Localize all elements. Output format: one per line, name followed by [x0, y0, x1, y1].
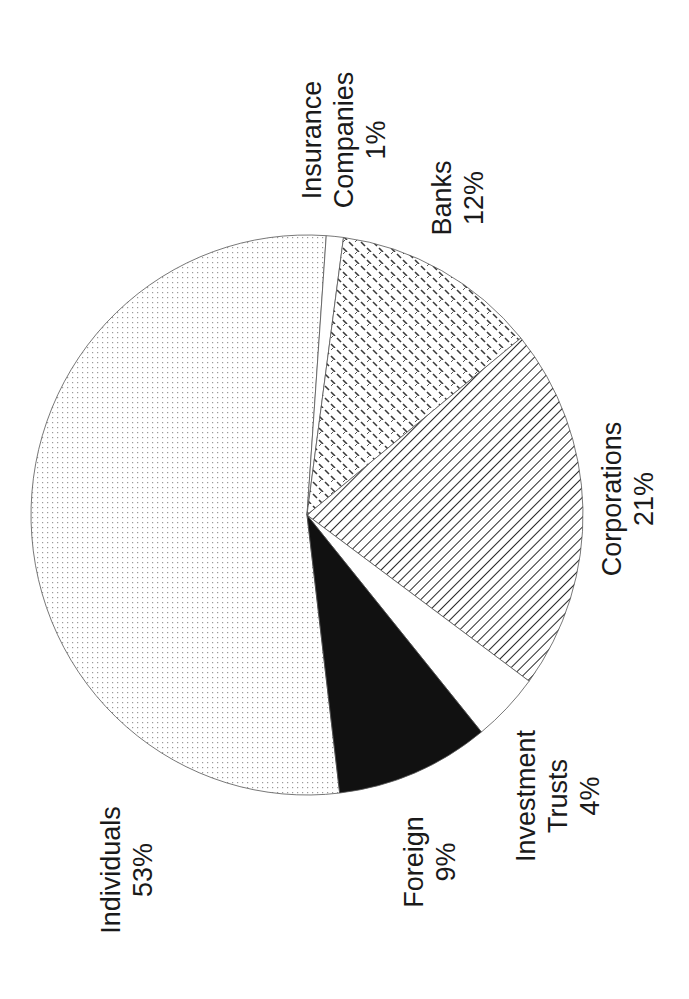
- label-banks: Banks 12%: [427, 160, 489, 235]
- pie-slices: [31, 235, 583, 795]
- label-individuals: Individuals 53%: [96, 806, 158, 934]
- label-insurance-line2: Companies: [329, 72, 359, 209]
- label-insurance-companies: Insurance Companies 1%: [297, 72, 391, 209]
- label-investment-trusts: Investment Trusts 4%: [511, 729, 605, 862]
- pie-chart: Individuals 53% Foreign 9% Investment Tr…: [0, 0, 689, 999]
- label-banks-pct: 12%: [459, 171, 489, 225]
- label-corporations-pct: 21%: [629, 472, 659, 526]
- slice-individuals: [31, 235, 340, 795]
- label-investment-line2: Trusts: [543, 759, 573, 833]
- label-investment-line1: Investment: [511, 729, 541, 862]
- pie-chart-svg: Individuals 53% Foreign 9% Investment Tr…: [0, 0, 689, 999]
- label-insurance-pct: 1%: [361, 120, 391, 159]
- label-individuals-name: Individuals: [96, 806, 126, 934]
- label-corporations: Corporations 21%: [597, 422, 659, 577]
- label-corporations-name: Corporations: [597, 422, 627, 577]
- label-foreign-name: Foreign: [399, 816, 429, 908]
- label-individuals-pct: 53%: [128, 843, 158, 897]
- label-investment-pct: 4%: [575, 776, 605, 815]
- label-foreign-pct: 9%: [431, 842, 461, 881]
- label-insurance-line1: Insurance: [297, 81, 327, 200]
- label-banks-name: Banks: [427, 160, 457, 235]
- label-foreign: Foreign 9%: [399, 816, 461, 908]
